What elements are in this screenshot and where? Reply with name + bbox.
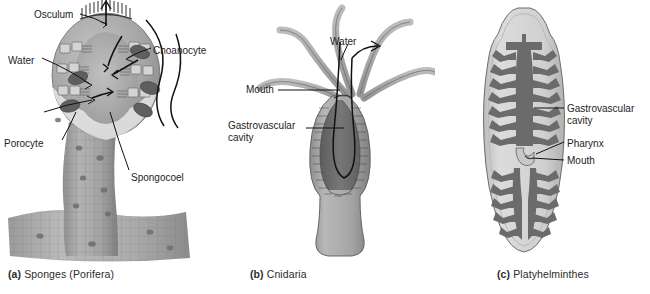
label-mouth-planarian: Mouth <box>567 155 595 167</box>
caption-tag-a: (a) <box>8 268 21 280</box>
label-gastrovascular-cavity-planarian: Gastrovascular cavity <box>567 103 634 126</box>
label-pharynx: Pharynx <box>567 138 604 150</box>
caption-panel-c: (c) Platyhelminthes <box>497 268 589 280</box>
gastrovascular-anterior-stub <box>522 34 526 48</box>
panel-cnidaria: Water Mouth Gastrovascular cavity <box>220 0 430 294</box>
caption-tag-b: (b) <box>250 268 264 280</box>
comparative-anatomy-figure: Osculum Water Choanocyte Porocyte Spongo… <box>0 0 650 294</box>
label-osculum: Osculum <box>34 9 73 21</box>
caption-text-c: Platyhelminthes <box>513 268 589 280</box>
label-water-hydra: Water <box>330 36 356 48</box>
hydra-illustration <box>220 0 435 294</box>
caption-panel-b: (b) Cnidaria <box>250 268 307 280</box>
label-porocyte: Porocyte <box>4 138 43 150</box>
caption-panel-a: (a) Sponges (Porifera) <box>8 268 114 280</box>
label-gastrovascular-cavity-hydra: Gastrovascular cavity <box>228 120 295 143</box>
caption-text-b: Cnidaria <box>267 268 307 280</box>
gastrovascular-trunk-anterior <box>516 44 533 146</box>
label-choanocyte: Choanocyte <box>153 45 206 57</box>
panel-platyhelminthes: Gastrovascular cavity Pharynx Mouth <box>430 0 650 294</box>
caption-text-a: Sponges (Porifera) <box>24 268 114 280</box>
label-spongocoel: Spongocoel <box>131 172 184 184</box>
label-mouth-hydra: Mouth <box>246 84 274 96</box>
sponge-stalk-texture <box>63 122 118 256</box>
planarian-illustration <box>430 0 650 294</box>
panel-sponges-porifera: Osculum Water Choanocyte Porocyte Spongo… <box>0 0 220 294</box>
label-water-sponge: Water <box>8 55 34 67</box>
caption-tag-c: (c) <box>497 268 510 280</box>
